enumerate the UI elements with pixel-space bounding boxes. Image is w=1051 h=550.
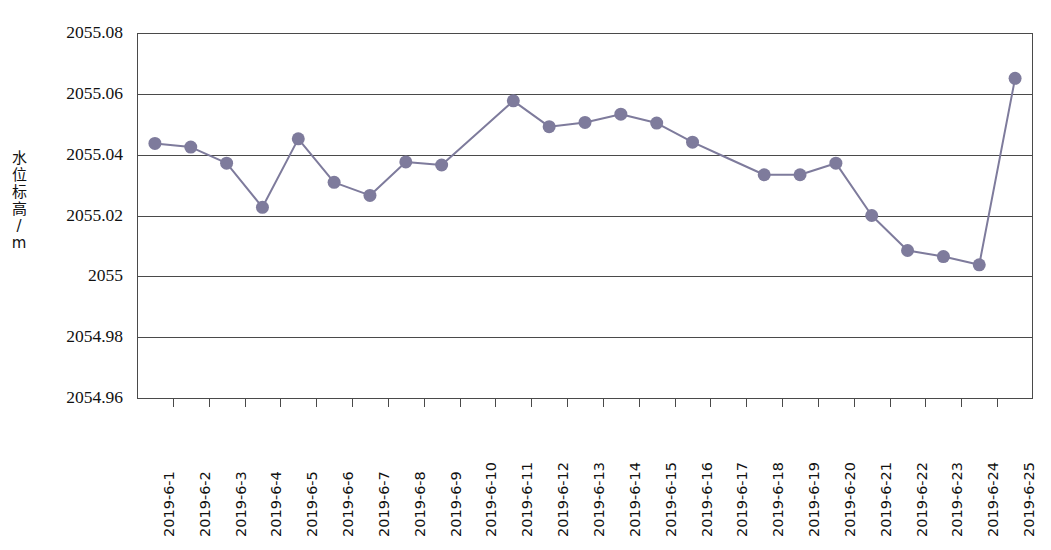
x-tick (675, 398, 676, 407)
x-axis-ticks (137, 398, 1033, 407)
data-point-marker: 2019-6-19: 2055.0334 (794, 168, 807, 181)
x-tick (854, 398, 855, 407)
data-point-marker: 2019-6-2: 2055.0425 (184, 141, 197, 154)
x-tick-label: 2019-6-23 (949, 407, 965, 537)
x-tick-label: 2019-6-18 (770, 407, 786, 537)
y-tick-label: 2055.06 (66, 85, 123, 102)
data-point-marker: 2019-6-1: 2055.0437 (148, 137, 161, 150)
x-tick (424, 398, 425, 407)
series-line (155, 78, 1015, 264)
x-tick-label: 2019-6-22 (914, 407, 930, 537)
x-tick-label: 2019-6-10 (483, 407, 499, 537)
x-tick (567, 398, 568, 407)
x-tick-label: 2019-6-3 (233, 407, 249, 537)
x-tick (531, 398, 532, 407)
data-point-marker: 2019-6-4: 2055.0227 (256, 201, 269, 214)
y-tick-label: 2054.96 (66, 389, 123, 406)
x-tick (782, 398, 783, 407)
data-point-marker: 2019-6-9: 2055.0366 (435, 159, 448, 172)
x-tick (603, 398, 604, 407)
data-point-marker: 2019-6-25: 2055.0651 (1009, 72, 1022, 85)
data-point-marker: 2019-6-15: 2055.0504 (650, 117, 663, 130)
y-tick-label: 2055.04 (66, 146, 123, 163)
x-tick-label: 2019-6-5 (304, 407, 320, 537)
x-tick (746, 398, 747, 407)
x-tick-label: 2019-6-6 (340, 407, 356, 537)
x-tick (925, 398, 926, 407)
data-point-marker: 2019-6-24: 2055.0038 (973, 258, 986, 271)
data-point-marker: 2019-6-18: 2055.0334 (758, 168, 771, 181)
x-tick (710, 398, 711, 407)
x-tick-label: 2019-6-9 (448, 407, 464, 537)
x-tick (316, 398, 317, 407)
y-tick-label: 2055 (88, 267, 123, 284)
x-tick (352, 398, 353, 407)
x-tick-label: 2019-6-16 (699, 407, 715, 537)
water-level-line-chart: 水位标高/m 2055.082055.062055.042055.0220552… (0, 0, 1051, 550)
x-tick-label: 2019-6-12 (555, 407, 571, 537)
data-point-marker: 2019-6-22: 2055.0085 (901, 244, 914, 257)
y-tick-label: 2054.98 (66, 328, 123, 345)
data-point-marker: 2019-6-12: 2055.0492 (543, 120, 556, 133)
x-tick-label: 2019-6-1 (161, 407, 177, 537)
y-tick-label: 2055.02 (66, 207, 123, 224)
data-point-marker: 2019-6-16: 2055.0441 (686, 136, 699, 149)
x-tick-label: 2019-6-8 (412, 407, 428, 537)
data-point-marker: 2019-6-13: 2055.0506 (579, 116, 592, 129)
x-tick (245, 398, 246, 407)
x-tick (173, 398, 174, 407)
x-axis-tick-labels: 2019-6-12019-6-22019-6-32019-6-42019-6-5… (0, 407, 1051, 550)
x-tick-label: 2019-6-25 (1021, 407, 1037, 537)
data-point-marker: 2019-6-5: 2055.0452 (292, 132, 305, 145)
x-tick (961, 398, 962, 407)
x-tick (209, 398, 210, 407)
x-tick-label: 2019-6-7 (376, 407, 392, 537)
x-tick-label: 2019-6-14 (627, 407, 643, 537)
data-point-marker: 2019-6-8: 2055.0376 (399, 155, 412, 168)
y-tick-label: 2055.08 (66, 24, 123, 41)
x-tick (890, 398, 891, 407)
x-tick (997, 398, 998, 407)
data-point-marker: 2019-6-23: 2055.0065 (937, 250, 950, 263)
x-tick-label: 2019-6-19 (806, 407, 822, 537)
x-tick (388, 398, 389, 407)
x-tick (280, 398, 281, 407)
data-point-marker: 2019-6-3: 2055.0372 (220, 157, 233, 170)
x-tick-label: 2019-6-2 (197, 407, 213, 537)
x-tick-label: 2019-6-13 (591, 407, 607, 537)
data-series-line: 2019-6-1: 2055.04372019-6-2: 2055.042520… (137, 33, 1033, 398)
plot-area: 2019-6-1: 2055.04372019-6-2: 2055.042520… (137, 33, 1033, 398)
data-point-marker: 2019-6-20: 2055.0372 (829, 157, 842, 170)
x-tick-label: 2019-6-4 (268, 407, 284, 537)
data-point-marker: 2019-6-21: 2055.02 (865, 209, 878, 222)
x-tick (639, 398, 640, 407)
x-tick-label: 2019-6-20 (842, 407, 858, 537)
x-tick-label: 2019-6-11 (519, 407, 535, 537)
data-point-marker: 2019-6-7: 2055.0266 (363, 189, 376, 202)
x-tick-label: 2019-6-21 (878, 407, 894, 537)
x-tick (495, 398, 496, 407)
x-tick (460, 398, 461, 407)
data-point-marker: 2019-6-6: 2055.0309 (328, 176, 341, 189)
x-tick (818, 398, 819, 407)
x-tick-label: 2019-6-15 (663, 407, 679, 537)
x-tick-label: 2019-6-24 (985, 407, 1001, 537)
data-point-marker: 2019-6-14: 2055.0533 (614, 108, 627, 121)
x-tick-label: 2019-6-17 (734, 407, 750, 537)
data-point-marker: 2019-6-11: 2055.0577 (507, 94, 520, 107)
